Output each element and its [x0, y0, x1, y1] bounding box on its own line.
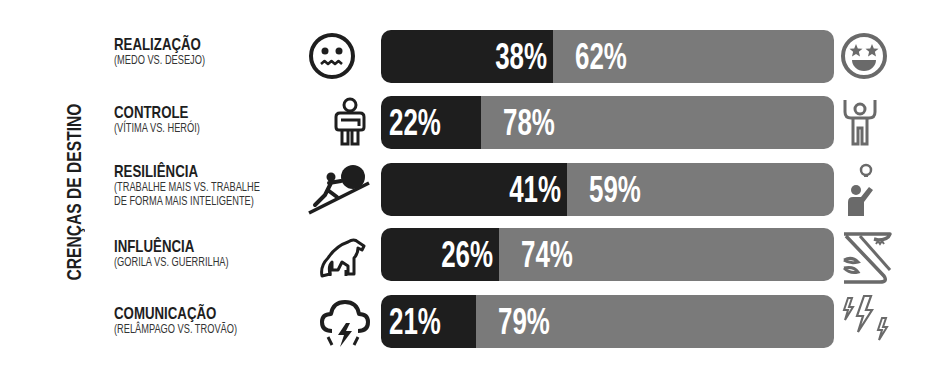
left-percent: 26% [441, 234, 493, 276]
row-title: INFLUÊNCIA [114, 238, 194, 255]
row-label-realizacao: REALIZAÇÃO (MEDO VS. DESEJO) [114, 36, 237, 68]
right-percent: 62% [575, 36, 627, 78]
storm-cloud-icon [318, 295, 372, 351]
hero-person-arms-up-icon [840, 96, 880, 148]
bar-resiliencia: 41% 59% [381, 163, 834, 216]
left-percent: 22% [389, 102, 441, 144]
left-percent: 38% [495, 36, 547, 78]
gorilla-icon [316, 228, 372, 284]
left-percent: 21% [389, 301, 441, 343]
row-title: RESILIÊNCIA [114, 163, 198, 180]
row-subtitle-line2: DE FORMA MAIS INTELIGENTE) [114, 195, 260, 209]
vertical-title: CRENÇAS DE DESTINO [63, 79, 86, 306]
bar-comunicacao: 21% 79% [381, 295, 834, 348]
row-subtitle: (GORILA VS. GUERRILHA) [114, 256, 229, 270]
bar-segment-left: 26% [381, 228, 499, 281]
star-struck-face-icon [838, 30, 890, 82]
row-label-comunicacao: COMUNICAÇÃO (RELÂMPAGO VS. TROVÃO) [114, 305, 280, 337]
row-title: CONTROLE [114, 104, 188, 121]
bar-segment-left: 38% [381, 30, 553, 83]
row-label-influencia: INFLUÊNCIA (GORILA VS. GUERRILHA) [114, 238, 269, 270]
bar-segment-right: 59% [567, 163, 834, 216]
row-subtitle: (MEDO VS. DESEJO) [114, 54, 205, 68]
right-percent: 78% [503, 102, 555, 144]
swiss-army-knife-icon [840, 228, 894, 284]
bar-segment-left: 21% [381, 295, 476, 348]
bar-controle: 22% 78% [381, 96, 834, 149]
row-subtitle-line1: (TRABALHE MAIS VS. TRABALHE [114, 181, 260, 195]
thunder-bolts-icon [840, 292, 894, 348]
bar-segment-left: 41% [381, 163, 567, 216]
row-subtitle: (RELÂMPAGO VS. TROVÃO) [114, 323, 237, 337]
row-label-controle: CONTROLE (VÍTIMA VS. HERÓI) [114, 104, 230, 136]
bar-segment-right: 79% [476, 295, 834, 348]
bar-segment-left: 22% [381, 96, 481, 149]
row-title: COMUNICAÇÃO [114, 305, 216, 322]
bar-realizacao: 38% 62% [381, 30, 834, 83]
pushing-boulder-icon [305, 163, 373, 221]
row-subtitle: (VÍTIMA VS. HERÓI) [114, 122, 200, 136]
right-percent: 79% [498, 301, 550, 343]
bar-influencia: 26% 74% [381, 228, 834, 281]
left-percent: 41% [509, 169, 561, 211]
person-lightbulb-icon [840, 160, 880, 218]
worried-face-icon [306, 30, 358, 82]
row-title: REALIZAÇÃO [114, 36, 201, 53]
right-percent: 74% [521, 234, 573, 276]
bar-segment-right: 78% [481, 96, 834, 149]
row-label-resiliencia: RESILIÊNCIA (TRABALHE MAIS VS. TRABALHE … [114, 163, 311, 208]
victim-person-icon [330, 96, 370, 148]
bar-segment-right: 74% [499, 228, 834, 281]
bar-segment-right: 62% [553, 30, 834, 83]
right-percent: 59% [589, 169, 641, 211]
